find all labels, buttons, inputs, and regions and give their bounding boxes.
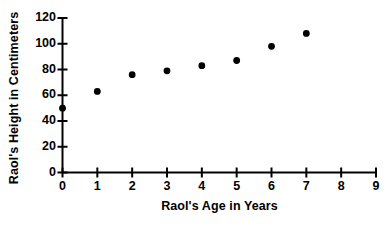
y-tick-label-wrap: 0 bbox=[22, 166, 56, 179]
y-tick-label-wrap: 80 bbox=[22, 63, 56, 76]
data-point-group bbox=[59, 30, 310, 111]
data-point bbox=[268, 43, 275, 50]
y-tick-label: 100 bbox=[22, 37, 56, 50]
y-tick-label: 20 bbox=[22, 140, 56, 153]
y-tick-label: 120 bbox=[22, 11, 56, 24]
x-axis-title: Raol's Age in Years bbox=[62, 199, 377, 213]
y-tick-label: 60 bbox=[22, 88, 56, 101]
y-tick-label: 40 bbox=[22, 114, 56, 127]
data-point bbox=[198, 62, 205, 69]
scatter-plot-figure: Raol's Height in Centimeters 02040608010… bbox=[0, 0, 388, 226]
x-tick-label: 6 bbox=[263, 179, 281, 193]
data-point bbox=[94, 88, 101, 95]
y-tick-label-wrap: 20 bbox=[22, 140, 56, 153]
y-tick-label: 0 bbox=[22, 166, 56, 179]
x-tick-label: 1 bbox=[88, 179, 106, 193]
data-point bbox=[233, 57, 240, 64]
x-tick-label: 4 bbox=[193, 179, 211, 193]
data-point bbox=[303, 30, 310, 37]
x-tick-label: 0 bbox=[54, 179, 72, 193]
x-tick-label: 7 bbox=[297, 179, 315, 193]
x-tick-label: 3 bbox=[158, 179, 176, 193]
x-tick-label: 5 bbox=[228, 179, 246, 193]
data-point bbox=[164, 67, 171, 74]
axis-lines bbox=[62, 18, 376, 173]
y-tick-label-wrap: 120 bbox=[22, 11, 56, 24]
y-tick-label-wrap: 60 bbox=[22, 88, 56, 101]
x-tick-label: 9 bbox=[367, 179, 385, 193]
data-point bbox=[59, 105, 66, 112]
data-point bbox=[129, 71, 136, 78]
y-tick-label: 80 bbox=[22, 63, 56, 76]
x-tick-label: 2 bbox=[123, 179, 141, 193]
x-tick-label: 8 bbox=[332, 179, 350, 193]
y-tick-label-wrap: 40 bbox=[22, 114, 56, 127]
y-tick-label-wrap: 100 bbox=[22, 37, 56, 50]
